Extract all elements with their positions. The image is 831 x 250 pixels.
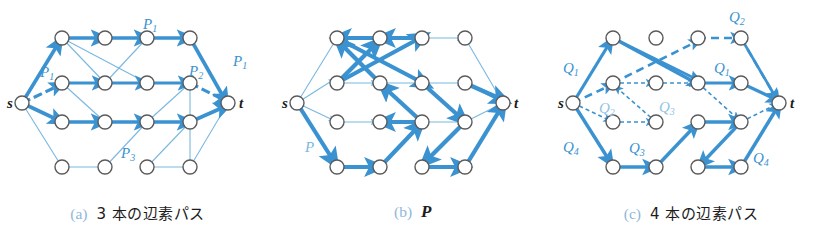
node [183,160,197,174]
caption-b: (b)P [275,202,551,222]
caption-c: (c)4 本の辺素パス [551,202,831,223]
node [373,160,387,174]
node [734,31,748,45]
node [415,31,429,45]
node [330,160,344,174]
node [183,115,197,129]
node [55,31,69,45]
path-label-p2: P2 [188,63,203,81]
panel-b-path-labels: P [304,139,314,155]
panel-b-graph: s t P [275,0,551,200]
node [734,76,748,90]
path-label-q1-right: Q1 [714,60,730,78]
source-label-c: s [557,95,564,111]
node [458,115,472,129]
node [691,115,705,129]
node [98,76,112,90]
sink-label-c: t [790,95,795,111]
node [98,160,112,174]
node [458,31,472,45]
node [649,115,663,129]
panel-a-graph: s t P1 P1 P1 P2 P3 [0,0,275,200]
sink-label-b: t [514,95,519,111]
node-sink [221,96,235,110]
caption-text-a: 3 本の辺素パス [96,205,204,223]
node [55,76,69,90]
panel-a: s t P1 P1 P1 P2 P3 (a)3 本の辺素パス [0,0,275,250]
node [458,160,472,174]
path-label-p1-top: P1 [142,16,157,34]
path-label-q4-left: Q4 [563,139,579,157]
node [649,160,663,174]
path-label-p1-right: P1 [232,53,247,71]
node [373,31,387,45]
sink-label-a: t [239,95,244,111]
node-sink [496,96,510,110]
path-label-q3-upper: Q3 [659,99,675,117]
node [691,160,705,174]
node [649,31,663,45]
node [98,115,112,129]
node [140,160,154,174]
path-label-p3: P3 [120,145,135,163]
node [330,115,344,129]
path-label-p: P [304,139,314,155]
path-label-q1-left: Q1 [563,60,579,78]
node-source [566,96,580,110]
path-label-q2-top: Q2 [729,9,745,27]
node [691,31,705,45]
node [373,76,387,90]
node [415,160,429,174]
node [415,115,429,129]
panel-b: s t P (b)P [275,0,551,250]
node [606,76,620,90]
panel-c-graph: s t Q1 Q2 Q1 Q2 Q3 Q3 Q4 Q4 [551,0,831,200]
node [330,76,344,90]
node [415,76,429,90]
node-sink [772,96,786,110]
source-label-a: s [6,95,13,111]
path-label-p1-left: P1 [39,64,54,82]
path-label-q4-right: Q4 [753,150,769,168]
node [98,31,112,45]
caption-text-b: P [421,202,432,221]
node [606,160,620,174]
node [649,76,663,90]
panel-c: s t Q1 Q2 Q1 Q2 Q3 Q3 Q4 Q4 (c)4 本の辺素パス [551,0,831,250]
caption-tag-c: (c) [624,205,641,222]
node-source [15,96,29,110]
source-label-b: s [281,95,288,111]
panel-c-q1 [573,38,775,103]
panel-b-path [297,38,501,167]
path-label-q2-left: Q2 [599,100,615,118]
node [734,115,748,129]
node-source [290,96,304,110]
node [330,31,344,45]
node [373,115,387,129]
node [140,76,154,90]
node [691,76,705,90]
node [55,160,69,174]
node [55,115,69,129]
caption-text-c: 4 本の辺素パス [650,205,758,223]
caption-tag-a: (a) [70,205,87,222]
node [183,31,197,45]
path-label-q3-lower: Q3 [629,140,645,158]
node [734,160,748,174]
caption-a: (a)3 本の辺素パス [0,202,275,223]
node [458,76,472,90]
caption-tag-b: (b) [394,203,412,220]
node [140,115,154,129]
figure-edge-disjoint-paths: s t P1 P1 P1 P2 P3 (a)3 本の辺素パス [0,0,831,250]
node [606,31,620,45]
